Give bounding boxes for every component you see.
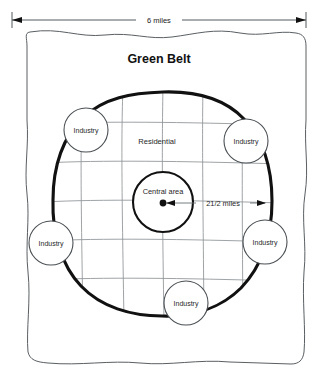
width-dimension-label: 6 miles [147,16,171,25]
radius-dimension-label: 21/2 miles [206,199,240,208]
industry-label: Industry [39,240,64,248]
diagram-canvas: 6 miles Green Belt [0,0,318,384]
width-dimension: 6 miles [12,12,306,28]
dimension-arrow-right-icon [296,17,306,23]
industry-site-bottom: Industry [164,281,208,325]
industry-label: Industry [174,300,199,308]
industry-site-right: Industry [243,220,287,264]
dimension-arrow-left-icon [12,17,22,23]
residential-label: Residential [138,137,176,146]
central-area: Central area [133,172,193,232]
radius-arrow-right-icon [257,200,266,206]
grid-line-v2 [122,86,124,322]
grid-line-v4 [203,86,204,322]
industry-site-left: Industry [29,221,73,265]
industry-site-top-right: Industry [224,119,268,163]
industry-label: Industry [253,239,278,247]
center-point-dot [160,200,167,207]
page-title: Green Belt [127,52,191,66]
central-area-label: Central area [143,187,185,196]
industry-site-top-left: Industry [64,108,108,152]
green-belt-diagram: 6 miles Green Belt [0,0,318,384]
industry-label: Industry [234,138,259,146]
industry-label: Industry [74,127,99,135]
